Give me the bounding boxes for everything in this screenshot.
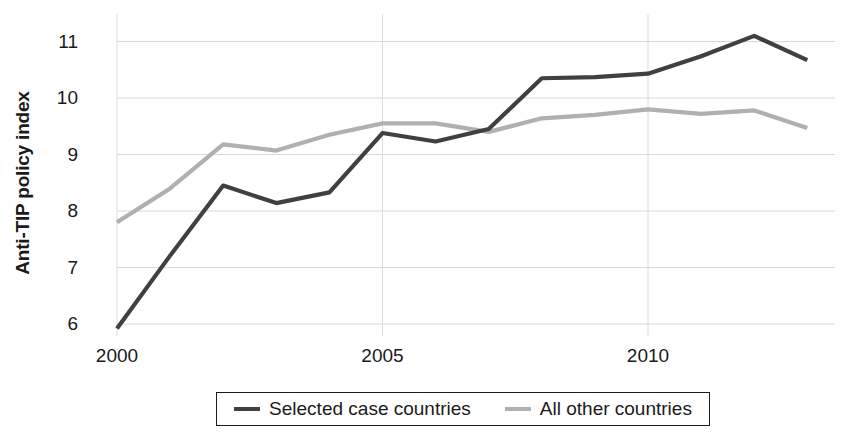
x-axis-tick-label: 2000: [96, 345, 138, 367]
legend-label-all-other-countries: All other countries: [540, 398, 692, 420]
plot-area: [0, 0, 849, 440]
x-axis-tick-label: 2010: [627, 345, 669, 367]
legend-swatch-dark: [234, 407, 260, 411]
legend-item-all-other-countries: All other countries: [505, 398, 692, 420]
legend-label-selected-case-countries: Selected case countries: [269, 398, 471, 420]
chart-legend: Selected case countries All other countr…: [216, 392, 710, 426]
line-chart: Anti-TIP policy index 67891011 Selected …: [0, 0, 849, 440]
series-line-selected-case-countries: [117, 36, 807, 329]
legend-swatch-light: [505, 407, 531, 411]
x-axis-tick-label: 2005: [361, 345, 403, 367]
series-line-all-other-countries: [117, 109, 807, 222]
legend-item-selected-case-countries: Selected case countries: [234, 398, 471, 420]
